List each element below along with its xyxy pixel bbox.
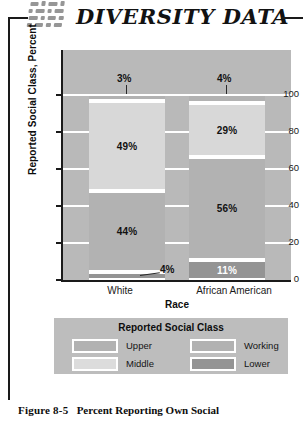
- x-axis-title: Race: [63, 299, 291, 310]
- y-tick-60: [56, 168, 61, 170]
- legend-label: Working: [244, 340, 279, 351]
- x-axis-line: [61, 280, 291, 282]
- segment-aa-middle: 29%: [189, 103, 265, 157]
- legend-label: Middle: [126, 358, 154, 369]
- plot-area: 49% 44% 29% 56% 11% 3% 4%: [63, 50, 291, 280]
- bar-white: 49% 44%: [89, 50, 165, 280]
- leader-line-white-upper: [126, 85, 127, 94]
- callout-aa-upper: 4%: [217, 73, 231, 84]
- segment-label: 49%: [117, 141, 138, 152]
- y-tick-label-100: 100: [261, 89, 299, 99]
- bar-african-american: 29% 56% 11%: [189, 50, 265, 280]
- legend-title: Reported Social Class: [54, 322, 288, 333]
- y-tick-label-0: 0: [261, 274, 299, 284]
- legend-swatch-lower: [190, 357, 236, 371]
- y-tick-label-80: 80: [261, 126, 299, 136]
- segment-aa-working: 56%: [189, 157, 265, 260]
- header-rule-right: [281, 17, 303, 19]
- callout-white-lower: 4%: [160, 264, 174, 275]
- segment-aa-lower: 11%: [189, 260, 265, 280]
- figure-caption-text: Percent Reporting Own Social: [77, 404, 219, 416]
- figure-number: Figure 8-5: [18, 404, 68, 416]
- y-tick-20: [56, 242, 61, 244]
- page-title: DIVERSITY DATA: [76, 0, 276, 33]
- callout-label: 4%: [160, 264, 174, 275]
- segment-label: 56%: [217, 203, 238, 214]
- segment-label: 11%: [217, 265, 237, 276]
- y-tick-100: [56, 94, 61, 96]
- y-tick-80: [56, 131, 61, 133]
- legend-swatch-upper: [72, 339, 118, 353]
- x-tick-label-white: White: [63, 285, 177, 296]
- legend-swatch-working: [190, 339, 236, 353]
- figure-container: 49% 44% 29% 56% 11% 3% 4%: [16, 44, 299, 396]
- y-tick-label-40: 40: [261, 200, 299, 210]
- segment-label: 29%: [217, 125, 238, 136]
- leader-line-aa-upper: [226, 85, 227, 94]
- segment-aa-upper: [189, 94, 265, 103]
- bracket-rule-top: [8, 17, 28, 19]
- bracket-rule-left: [8, 18, 10, 400]
- callout-white-upper: 3%: [117, 73, 131, 84]
- figure-caption: Figure 8-5 Percent Reporting Own Social: [18, 404, 300, 424]
- segment-white-working: 44%: [89, 191, 165, 272]
- legend: Reported Social Class Upper Working Midd…: [54, 318, 288, 374]
- legend-label: Upper: [126, 340, 152, 351]
- y-tick-label-60: 60: [261, 163, 299, 173]
- y-axis-title: Reported Social Class, Percent: [27, 0, 38, 200]
- legend-swatch-middle: [72, 357, 118, 371]
- callout-label: 4%: [217, 73, 231, 84]
- segment-white-middle: 49%: [89, 101, 165, 191]
- diversity-data-header: DIVERSITY DATA: [0, 0, 305, 38]
- y-axis-line: [61, 50, 63, 280]
- segment-label: 44%: [117, 226, 138, 237]
- legend-label: Lower: [244, 358, 270, 369]
- y-tick-label-20: 20: [261, 237, 299, 247]
- callout-label: 3%: [117, 73, 131, 84]
- segment-white-upper: [89, 94, 165, 101]
- y-tick-40: [56, 205, 61, 207]
- x-tick-label-african-american: African American: [177, 285, 291, 296]
